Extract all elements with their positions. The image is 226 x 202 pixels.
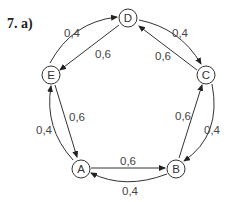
node-b: B xyxy=(167,160,185,178)
node-label-c: C xyxy=(202,69,210,81)
edge-label-c-b: 0,4 xyxy=(204,124,221,136)
markov-chain-diagram: 0,4 0,6 0,4 0,6 0,4 0,6 0,4 0,6 0,4 0,6 … xyxy=(0,0,226,202)
node-e: E xyxy=(42,66,60,84)
edge-label-a-b: 0,6 xyxy=(120,155,136,167)
edge-label-b-c: 0,6 xyxy=(175,110,191,122)
node-d: D xyxy=(119,9,137,27)
edge-label-c-d: 0,6 xyxy=(155,50,171,62)
edge-a-to-e xyxy=(50,86,73,160)
node-label-e: E xyxy=(47,69,55,81)
node-a: A xyxy=(72,160,90,178)
edge-label-d-c: 0,4 xyxy=(172,27,189,39)
edge-label-a-e: 0,4 xyxy=(36,124,53,136)
edge-c-to-d xyxy=(139,26,197,70)
edge-b-to-a xyxy=(91,173,167,182)
node-label-b: B xyxy=(172,163,180,175)
node-label-d: D xyxy=(124,12,132,24)
node-c: C xyxy=(197,66,215,84)
node-label-a: A xyxy=(77,163,85,175)
edge-label-e-a: 0,6 xyxy=(69,111,85,123)
edge-label-d-e: 0,6 xyxy=(95,48,111,60)
edge-label-b-a: 0,4 xyxy=(122,185,139,197)
edge-label-e-d: 0,4 xyxy=(64,27,81,39)
